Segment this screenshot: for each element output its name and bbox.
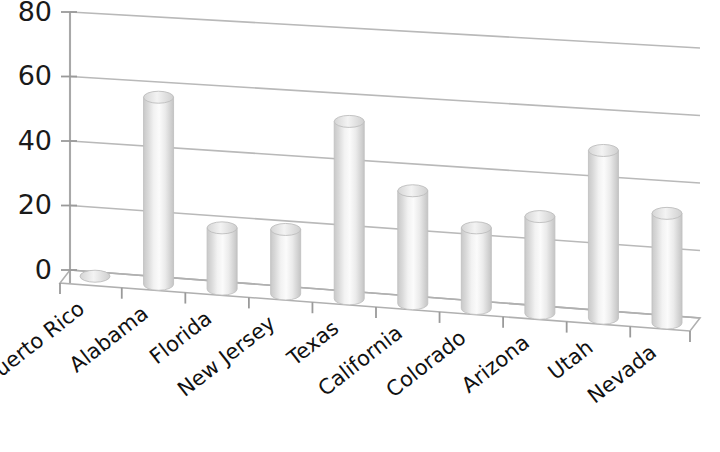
- bar-top-cap: [80, 270, 110, 282]
- bar-body: [588, 150, 618, 324]
- bar-body: [334, 121, 364, 304]
- bar-texas: [334, 115, 364, 304]
- bar-top-cap: [334, 115, 364, 127]
- bar-top-cap: [398, 185, 428, 197]
- y-axis-label-60: 60: [18, 60, 52, 91]
- bar-colorado: [461, 222, 491, 315]
- y-axis-label-20: 20: [18, 189, 52, 220]
- bar-new-jersey: [271, 223, 301, 300]
- bar-top-cap: [271, 223, 301, 235]
- bar-chart: 020406080 Puerto RicoAlabamaFloridaNew J…: [0, 0, 720, 452]
- bar-top-cap: [588, 144, 618, 156]
- bar-arizona: [525, 211, 555, 320]
- bar-florida: [207, 222, 237, 295]
- bar-body: [461, 228, 491, 315]
- bar-nevada: [652, 207, 682, 329]
- chart-canvas: 020406080 Puerto RicoAlabamaFloridaNew J…: [0, 0, 720, 452]
- bar-california: [398, 185, 428, 310]
- bar-alabama: [144, 91, 174, 290]
- bar-top-cap: [461, 222, 491, 234]
- bar-body: [525, 217, 555, 320]
- bar-body: [207, 228, 237, 295]
- bar-puerto-rico: [80, 270, 110, 282]
- y-axis-label-80: 80: [18, 0, 52, 27]
- y-axis-label-40: 40: [18, 125, 52, 156]
- bar-utah: [588, 144, 618, 324]
- bar-body: [144, 97, 174, 290]
- bar-top-cap: [144, 91, 174, 103]
- bar-top-cap: [207, 222, 237, 234]
- bar-top-cap: [652, 207, 682, 219]
- bar-body: [652, 213, 682, 329]
- bar-body: [398, 191, 428, 310]
- bar-body: [271, 229, 301, 300]
- y-axis-label-0: 0: [35, 254, 52, 285]
- bar-top-cap: [525, 211, 555, 223]
